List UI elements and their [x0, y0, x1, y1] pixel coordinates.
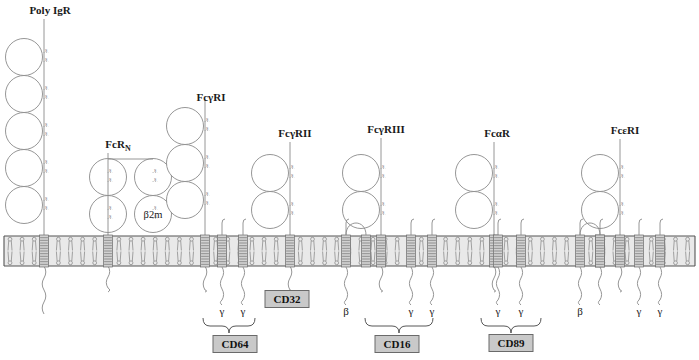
accessory-chain-fcgriii — [428, 219, 437, 305]
cd-label-text: CD16 — [384, 338, 411, 350]
receptor-label-fcgri: FcγRI — [197, 91, 226, 103]
tm-helix-poly-igr — [40, 235, 49, 267]
disulfide-label: S — [206, 163, 209, 168]
chain-label: γ — [408, 305, 414, 317]
disulfide-label: S — [45, 57, 48, 62]
receptor-label-text: FcRN — [105, 138, 131, 153]
chain-label: γ — [636, 305, 642, 317]
cd-label-text: CD89 — [498, 337, 525, 349]
cd-label-cd32[interactable]: CD32 — [265, 291, 309, 308]
disulfide-label: S — [291, 210, 294, 215]
chain-label: β — [343, 305, 349, 317]
tm-helix-fcgrii — [286, 235, 295, 267]
diagram-canvas: SSSSSSSSSSβ2mSSSSSSSSSSSSSSSSSSSSSSSSSSS… — [0, 0, 699, 360]
cd-label-cd16[interactable]: CD16 — [375, 336, 419, 353]
disulfide-label: S — [621, 210, 624, 215]
tm-helix-fcgriii — [377, 235, 386, 267]
disulfide-label: S — [495, 201, 498, 206]
chain-label: γ — [219, 305, 225, 317]
disulfide-label: S — [45, 205, 48, 210]
cd-label-text: CD32 — [274, 293, 301, 305]
disulfide-label: S — [206, 191, 209, 196]
receptor-label-fcgriii: FcγRIII — [367, 123, 405, 146]
receptor-label-fcgrii: FcγRII — [278, 127, 311, 146]
receptor-label-text: FcγRII — [278, 127, 311, 139]
tm-helix-fceri — [616, 235, 625, 267]
receptor-label-text: FcγRI — [197, 91, 226, 103]
disulfide-label: S — [291, 201, 294, 206]
disulfide-label: S — [45, 94, 48, 99]
receptor-poly-igr[interactable]: SSSSSSSSSS — [6, 30, 49, 314]
receptor-fcar[interactable]: SSSS — [456, 146, 499, 292]
receptor-label-text: FcαR — [484, 127, 511, 139]
accessory-chain-fcgri — [239, 219, 248, 305]
disulfide-label: S — [45, 196, 48, 201]
receptor-label-fceri: FcεRI — [611, 124, 640, 146]
cd-label-cd89[interactable]: CD89 — [489, 335, 533, 352]
receptor-label-text: FcεRI — [611, 124, 640, 136]
disulfide-label: S — [206, 117, 209, 122]
disulfide-label: S — [206, 126, 209, 131]
disulfide-label: S — [291, 164, 294, 169]
receptor-fcrn[interactable]: β2mSSSSSSSS — [90, 159, 172, 293]
receptor-label-fcrn: FcRN — [105, 138, 131, 158]
accessory-chain-fceri — [635, 219, 644, 305]
disulfide-label: S — [45, 131, 48, 136]
disulfide-label: S — [382, 173, 385, 178]
disulfide-label: S — [382, 164, 385, 169]
receptor-layer: SSSSSSSSSSβ2mSSSSSSSSSSSSSSSSSSSSSSSSSSS… — [6, 30, 625, 314]
disulfide-label: S — [382, 210, 385, 215]
disulfide-label: S — [45, 159, 48, 164]
cd-label-text: CD64 — [222, 338, 249, 350]
receptor-name-layer: Poly IgRFcRNFcγRIFcγRIIFcγRIIIFcαRFcεRI — [29, 4, 639, 158]
chain-label: γ — [657, 305, 663, 317]
receptor-fcgrii[interactable]: SSSS — [252, 146, 295, 292]
chain-label: γ — [429, 305, 435, 317]
disulfide-label: S — [495, 164, 498, 169]
chain-label: β — [577, 305, 583, 317]
accessory-chain-fceri — [656, 219, 665, 305]
disulfide-label: S — [621, 164, 624, 169]
chain-label: γ — [495, 305, 501, 317]
disulfide-label: S — [206, 154, 209, 159]
disulfide-label: S — [621, 201, 624, 206]
fc-receptor-diagram: SSSSSSSSSSβ2mSSSSSSSSSSSSSSSSSSSSSSSSSSS… — [0, 0, 699, 360]
disulfide-label: S — [291, 173, 294, 178]
tm-helix-fcrn — [104, 235, 113, 267]
receptor-label-text: Poly IgR — [29, 4, 71, 16]
disulfide-label: S — [621, 173, 624, 178]
disulfide-label: S — [45, 48, 48, 53]
accessory-chain-fcgriii — [407, 219, 416, 305]
disulfide-label: S — [206, 200, 209, 205]
accessory-chain-fcgri — [218, 219, 227, 305]
receptor-label-text: FcγRIII — [367, 123, 405, 135]
disulfide-label: S — [382, 201, 385, 206]
cd-label-layer: CD32CD64CD16CD89 — [213, 291, 533, 353]
disulfide-label: S — [495, 210, 498, 215]
complex-braces — [203, 318, 541, 333]
chain-label: γ — [518, 305, 524, 317]
disulfide-label: S — [45, 122, 48, 127]
disulfide-label: S — [495, 173, 498, 178]
receptor-label-poly-igr: Poly IgR — [29, 4, 71, 30]
chain-label: γ — [240, 305, 246, 317]
tm-helix-fcgri — [201, 235, 210, 267]
disulfide-label: S — [45, 168, 48, 173]
cd-label-cd64[interactable]: CD64 — [213, 336, 257, 353]
accessory-chain-fcar — [517, 219, 526, 305]
disulfide-label: S — [45, 85, 48, 90]
receptor-label-fcar: FcαR — [484, 127, 511, 146]
